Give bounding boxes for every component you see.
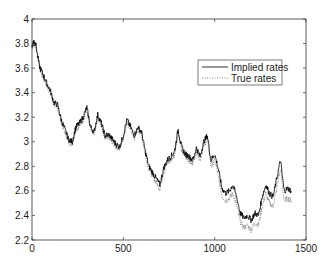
y-tick-label: 3.8 xyxy=(15,38,29,49)
x-tick-label: 0 xyxy=(29,243,35,254)
y-tick-label: 2.6 xyxy=(15,185,29,196)
y-tick-label: 2.2 xyxy=(15,235,29,246)
y-tick-label: 3 xyxy=(23,136,29,147)
legend-label-true: True rates xyxy=(231,73,276,84)
y-tick-label: 3.6 xyxy=(15,63,29,74)
y-tick-label: 2.4 xyxy=(15,210,29,221)
line-chart: 0500100015002.22.42.62.833.23.43.63.84 I… xyxy=(0,0,331,267)
y-tick-label: 4 xyxy=(23,14,29,25)
legend-label-implied: Implied rates xyxy=(231,62,288,73)
y-tick-label: 3.4 xyxy=(15,87,29,98)
x-tick-label: 1500 xyxy=(295,243,318,254)
legend: Implied rates True rates xyxy=(198,60,288,85)
plot-area xyxy=(32,19,306,240)
y-tick-label: 3.2 xyxy=(15,112,29,123)
x-tick-label: 500 xyxy=(115,243,132,254)
chart-figure: 0500100015002.22.42.62.833.23.43.63.84 I… xyxy=(0,0,331,267)
y-tick-label: 2.8 xyxy=(15,161,29,172)
x-tick-label: 1000 xyxy=(204,243,227,254)
